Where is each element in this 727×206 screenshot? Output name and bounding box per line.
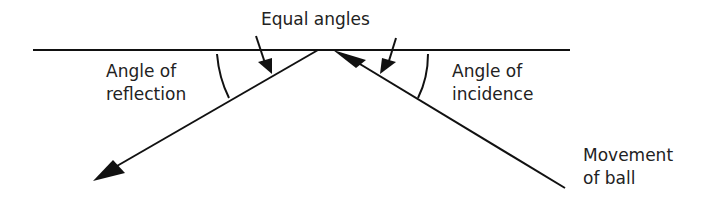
reflection-label-line1: Angle of [106,60,176,82]
reflection-label-line2: reflection [106,83,186,105]
reflection-angle-arc [217,54,229,98]
left-pointer-arrowhead-icon [258,58,272,74]
reflection-diagram: Equal angles Angle of reflection Angle o… [0,0,727,206]
incidence-angle-arc [418,54,428,98]
ball-label-line2: of ball [583,167,635,189]
ball-label-line1: Movement [583,144,673,166]
incidence-label-line1: Angle of [452,60,522,82]
right-pointer-arrowhead-icon [380,58,396,74]
equal-angles-label: Equal angles [261,8,370,30]
incidence-label-line2: incidence [452,83,533,105]
